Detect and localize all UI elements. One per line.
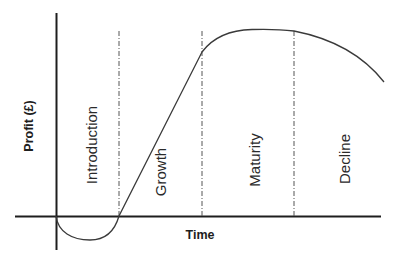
product-life-cycle-diagram: Profit (£) Time Introduction Growth Matu… — [0, 0, 395, 267]
phase-label-introduction: Introduction — [83, 106, 100, 184]
x-axis-title: Time — [186, 228, 215, 242]
diagram-canvas: Profit (£) Time Introduction Growth Matu… — [0, 0, 395, 267]
y-axis-title: Profit (£) — [22, 100, 36, 151]
phase-label-decline: Decline — [336, 134, 353, 184]
phase-label-growth: Growth — [152, 148, 169, 196]
phase-label-maturity: Maturity — [246, 133, 263, 187]
profit-curve — [56, 29, 384, 240]
